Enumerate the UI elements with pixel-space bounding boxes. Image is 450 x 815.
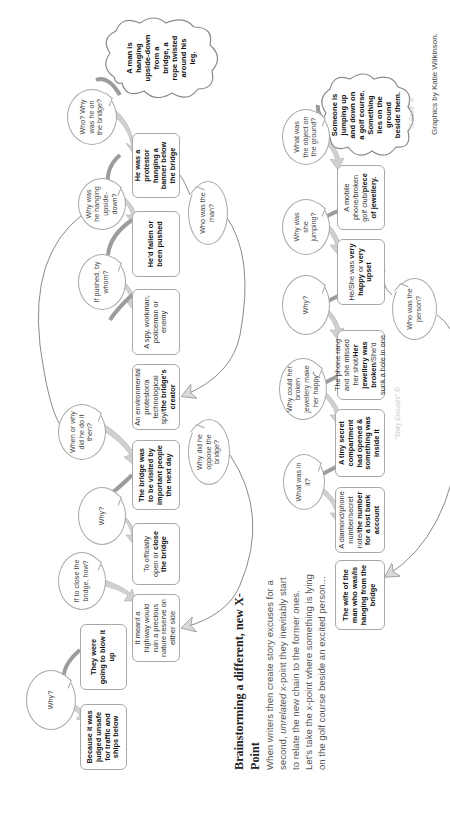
question-if-pushed: If pushed, by whom? — [78, 254, 126, 310]
node-fallen-or-pushed: He'd fallen or been pushed — [132, 211, 180, 277]
question-who-was-person: Who was the person? — [392, 278, 437, 340]
graphics-credit: Graphics by Katie Wilkinson. — [430, 33, 439, 135]
question-why-oppose: Why did he oppose the bridge? — [188, 419, 230, 485]
question-who-on-bridge: Who? Why was he on the bridge? — [67, 89, 117, 145]
node-highway-reserve: It meant a highway would ruin a precious… — [132, 594, 180, 662]
node-blow-it-up: They were going to blow it up — [80, 624, 127, 690]
xpoint-cloud-bridge: A man is hanging upside-down from a brid… — [102, 19, 220, 97]
node-protestor-banner: He was a protestor hanging a banner belo… — [132, 133, 180, 198]
watermark-story-excuses: "Story Excuses" © — [394, 387, 401, 440]
node-text: A diamond/phone number/secret note/the n… — [338, 491, 382, 549]
node-wife-of-man: The wife of the man who was/is hanging f… — [335, 560, 385, 630]
node-text: It meant a highway would ruin a precious… — [134, 598, 178, 658]
question-why-upside-down: Why was he hanging upside-down? — [78, 178, 126, 230]
node-environmental-protestor: An environmental protestor/a technologic… — [132, 364, 180, 430]
rotated-page: A man is hanging upside-down from a brid… — [0, 0, 450, 815]
node-text: Because it was judged unsafe for traffic… — [86, 708, 122, 766]
node-happy-or-upset: He/She was very happy or very upset — [337, 239, 385, 305]
question-what-in-it: What was in it? — [283, 454, 325, 510]
question-who-was-man: Who was the man? — [188, 181, 228, 245]
node-bridge-visited: The bridge was to be visited by importan… — [132, 440, 180, 510]
watermark-xpoint: "X-Point" © — [408, 97, 415, 130]
question-broken-jewellery: Why could her broken jewellery make her … — [279, 358, 327, 420]
question-when-or-why: When or why did he do it then? — [58, 404, 106, 460]
question-why-jumping: Why was she jumping? — [282, 199, 330, 255]
node-text: The bridge was to be visited by importan… — [138, 444, 174, 506]
node-text: A tiny secret compartment had opened & s… — [338, 413, 382, 473]
question-why-2: Why? — [26, 670, 76, 730]
node-phone-rang: The phone rang and she missed her shot/H… — [337, 330, 385, 400]
node-text: He was a protestor hanging a banner belo… — [134, 137, 178, 194]
node-judged-unsafe: Because it was judged unsafe for traffic… — [80, 704, 127, 770]
section-paragraph: When writers then create story excuses f… — [264, 570, 329, 770]
question-why-1: Why? — [78, 487, 126, 545]
node-spy-workman: A spy, workman, policeman or enemy — [132, 289, 180, 355]
question-why-3: Why? — [282, 275, 330, 335]
node-text: They were going to blow it up — [90, 628, 117, 686]
node-secret-compartment: A tiny secret compartment had opened & s… — [335, 409, 385, 477]
question-object-on-ground: What was the object on the ground? — [282, 109, 330, 165]
node-mobile-phone-jewellery: A mobile phone/broken golf club/piece of… — [337, 165, 385, 230]
node-text: An environmental protestor/a technologic… — [134, 368, 178, 426]
section-title: Brainstorming a different, new X-Point — [232, 580, 264, 770]
node-text: He'd fallen or been pushed — [147, 215, 165, 273]
xpoint-cloud-golf: Someone is jumping up and down on a golf… — [320, 75, 412, 155]
node-text: To officially open or close the bridge — [143, 527, 170, 581]
node-open-or-close: To officially open or close the bridge — [132, 523, 180, 585]
node-diamond-bank-account: A diamond/phone number/secret note/the n… — [335, 487, 385, 553]
node-text: A spy, workman, policeman or enemy — [143, 293, 170, 351]
node-text: The wife of the man who was/is hanging f… — [342, 564, 378, 626]
question-if-close-how: If to close the bridge, how? — [58, 552, 106, 610]
cloud-text: Someone is jumping up and down on a golf… — [330, 75, 403, 155]
cloud-text: A man is hanging upside-down from a brid… — [125, 19, 198, 97]
node-text: A mobile phone/broken golf club/piece of… — [343, 169, 379, 226]
node-text: He/She was very happy or very upset — [348, 243, 375, 301]
node-text: The phone rang and she missed her shot/H… — [334, 334, 387, 396]
